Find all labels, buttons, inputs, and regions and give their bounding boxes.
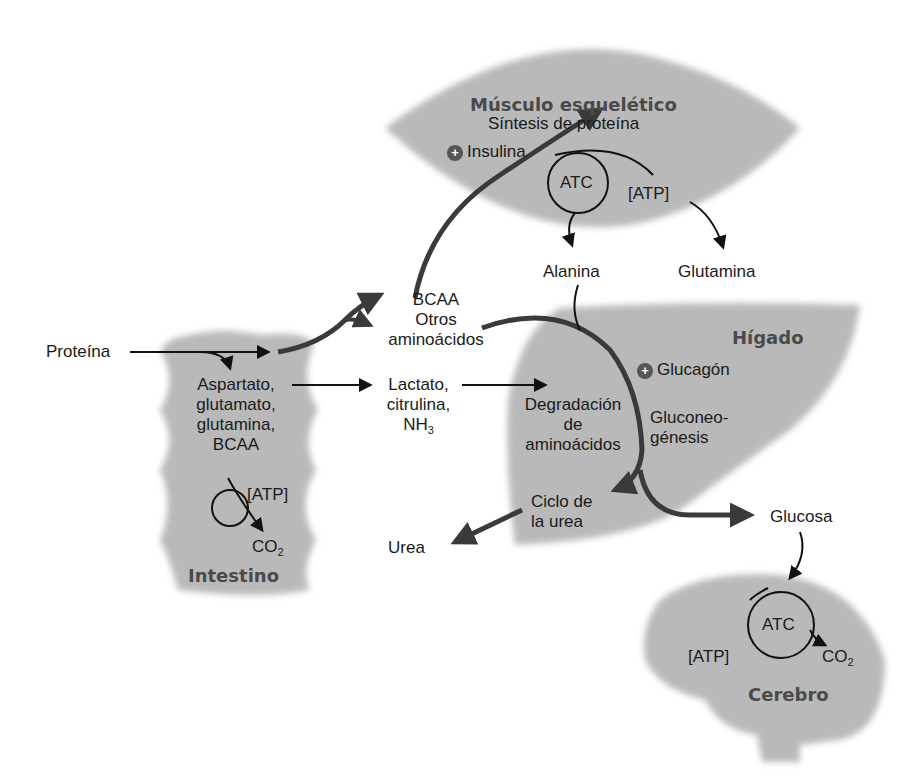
brain-atc-label: ATC xyxy=(762,615,795,635)
gluconeo-text: Gluconeo- xyxy=(650,408,728,428)
bcaa-int-text: BCAA xyxy=(186,435,286,455)
citrulina-text: citrulina, xyxy=(376,395,461,415)
genesis-text: génesis xyxy=(650,428,728,448)
protein-synthesis-label: Síntesis de proteína xyxy=(488,114,639,134)
glucagon-text: Glucagón xyxy=(657,360,730,379)
otros-text: Otros xyxy=(386,310,486,330)
aminoacidos-text: aminoácidos xyxy=(386,330,486,350)
degradacion-text: Degradación xyxy=(513,395,633,415)
insulin-label: +Insulina xyxy=(447,142,526,162)
muscle-atp-label: [ATP] xyxy=(628,184,669,204)
arrow-to-urea xyxy=(455,510,522,542)
urea-cycle-label: Ciclo de la urea xyxy=(531,492,592,532)
aspartato-text: Aspartato, xyxy=(186,375,286,395)
lactate-group: Lactato, citrulina, NH3 xyxy=(376,375,461,440)
muscle-shape xyxy=(385,49,800,227)
bcaa-group: BCAA Otros aminoácidos xyxy=(386,290,486,350)
lactato-text: Lactato, xyxy=(376,375,461,395)
ciclo-text: Ciclo de xyxy=(531,492,592,512)
intestine-co2-label: CO2 xyxy=(252,537,284,562)
glutamato-text: glutamato, xyxy=(186,395,286,415)
intestine-aa-group: Aspartato, glutamato, glutamina, BCAA xyxy=(186,375,286,455)
glucose-label: Glucosa xyxy=(770,507,832,527)
intestine-title: Intestino xyxy=(188,565,279,586)
brain-co2-label: CO2 xyxy=(822,647,854,672)
alanine-label: Alanina xyxy=(543,262,600,282)
arrow-other-aa xyxy=(345,320,370,325)
plus-icon: + xyxy=(447,145,463,161)
bcaa-text: BCAA xyxy=(386,290,486,310)
nh3-text: NH3 xyxy=(376,415,461,440)
brain-title: Cerebro xyxy=(748,684,829,705)
liver-title: Hígado xyxy=(732,327,804,348)
muscle-title: Músculo esquelético xyxy=(470,94,677,115)
de-text: de xyxy=(513,415,633,435)
intestine-shape xyxy=(160,331,318,595)
muscle-atc-label: ATC xyxy=(560,173,593,193)
insulin-text: Insulina xyxy=(467,142,526,161)
glutamina-text: glutamina, xyxy=(186,415,286,435)
glutamine-label: Glutamina xyxy=(678,262,755,282)
glucagon-label: +Glucagón xyxy=(637,360,730,380)
gluconeogenesis-label: Gluconeo- génesis xyxy=(650,408,728,448)
protein-label: Proteína xyxy=(46,342,110,362)
urea-label: Urea xyxy=(388,538,425,558)
plus-icon: + xyxy=(637,363,653,379)
aminoacidos-liver-text: aminoácidos xyxy=(513,435,633,455)
intestine-atp-label: [ATP] xyxy=(247,485,288,505)
la-urea-text: la urea xyxy=(531,512,592,532)
brain-atp-label: [ATP] xyxy=(688,647,729,667)
degradation-label: Degradación de aminoácidos xyxy=(513,395,633,455)
